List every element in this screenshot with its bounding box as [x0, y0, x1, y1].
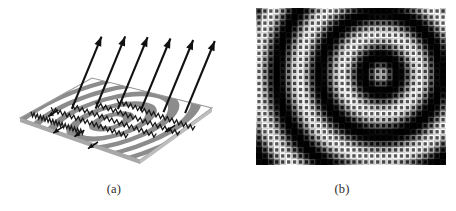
vector-head [118, 36, 125, 46]
panel-a-wave-surface [0, 0, 228, 180]
caption-panel-b: (b) [228, 182, 456, 197]
vector-head [163, 39, 170, 49]
lattice-grid [256, 8, 446, 165]
vector-head [95, 37, 102, 47]
vector-shaft [185, 41, 215, 113]
wave-surface-illustration [0, 0, 228, 180]
propagation-vector-6 [185, 41, 215, 113]
vector-head [141, 37, 148, 47]
vector-head [186, 40, 193, 50]
vector-head [208, 41, 215, 51]
panel-b-sampled-lattice [228, 0, 456, 180]
caption-panel-a: (a) [0, 182, 228, 197]
lattice-canvas [256, 8, 446, 165]
figure-container: (a) (b) [0, 0, 456, 211]
